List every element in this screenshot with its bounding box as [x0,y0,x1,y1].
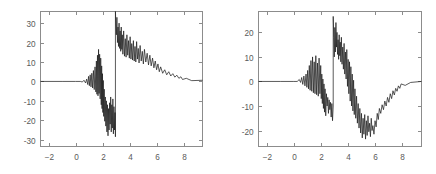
y-tick-label: -10 [242,103,254,112]
right-x-tick-labels: −202468 [263,153,405,162]
y-tick-label: -30 [24,137,36,146]
x-tick-label: 8 [182,153,187,162]
x-tick-label: 4 [128,153,133,162]
x-tick-label: 4 [346,153,351,162]
figure-container: -30-20-100102030 −202468 -20-1001020 −20… [0,0,436,174]
right-y-tick-labels: -20-1001020 [242,29,254,137]
y-tick-label: 0 [249,78,254,87]
x-tick-label: 0 [292,153,297,162]
x-tick-label: 0 [74,153,79,162]
y-tick-label: -20 [24,117,36,126]
right-axis-frame [259,12,422,147]
y-tick-label: 10 [26,59,36,68]
right-signal-plot: -20-1001020 −202468 [218,0,436,174]
y-tick-label: 0 [31,78,36,87]
x-tick-label: 6 [155,153,160,162]
y-tick-label: 30 [26,20,36,29]
y-tick-label: -20 [242,128,254,137]
y-tick-label: 20 [26,40,36,49]
right-tick-marks [259,12,422,147]
right-chart-panel: -20-1001020 −202468 [218,0,436,174]
x-tick-label: 6 [373,153,378,162]
right-signal-trace [259,16,422,139]
left-chart-panel: -30-20-100102030 −202468 [0,0,218,174]
x-tick-label: 2 [319,153,324,162]
left-x-tick-labels: −202468 [45,153,187,162]
left-y-tick-labels: -30-20-100102030 [24,20,36,146]
left-signal-trace [41,12,203,137]
x-tick-label: −2 [45,153,55,162]
x-tick-label: 2 [101,153,106,162]
left-signal-plot: -30-20-100102030 −202468 [0,0,218,174]
y-tick-label: 10 [244,54,254,63]
right-plot-axes [259,12,422,147]
y-tick-label: 20 [244,29,254,38]
y-tick-label: -10 [24,98,36,107]
x-tick-label: −2 [263,153,273,162]
x-tick-label: 8 [400,153,405,162]
